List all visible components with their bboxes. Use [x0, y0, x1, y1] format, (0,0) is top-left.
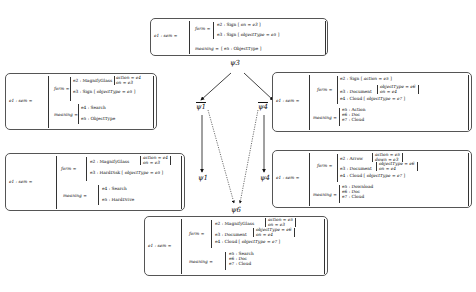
form-attrs: action = e4on = e3 [114, 76, 141, 85]
form-brace [86, 157, 87, 181]
meaning-entry: e5 : HardDrive [102, 197, 134, 202]
form-entry: e3 : Sign [ objectType = e5 ] [217, 32, 279, 37]
form-entry: e4 : Cloud [ objectType = e7 ] [215, 239, 280, 244]
form-entry: e4 : Cloud [ objectType = e7 ] [340, 96, 405, 101]
form-brace [70, 77, 71, 101]
meaning-entry: e5 : Downloade6 : Doce7 : Cloud [342, 185, 373, 199]
form-label: form = [317, 163, 332, 168]
avm-mid-left: e1 : sem = form = e2 : MagnifyGlass acti… [5, 73, 157, 130]
form-attrs: action = e4on = e3 [140, 156, 171, 165]
arrow-psi4bar-to-psi6 [240, 110, 258, 203]
meaning-entry: [ e5 : ObjectType ] [221, 46, 261, 51]
meaning-brace [339, 185, 340, 203]
avm-lhs: e1 : sem = [148, 243, 171, 248]
meaning-label: meaning = [63, 193, 87, 198]
arrow-psi1bar-to-psi6 [208, 110, 234, 203]
form-entry: e3 : Document [340, 89, 372, 94]
arrow-psi3-to-psi1bar [201, 73, 231, 100]
meaning-entry: e5 : ObjectType [81, 116, 115, 121]
form-entry: e2 : MagnifyGlass [90, 159, 129, 164]
label-psi6: ψ6 [231, 206, 241, 214]
form-brace [211, 220, 212, 248]
form-entry: e2 : Sign [ action = e5 ] [340, 76, 392, 81]
avm-top: e1 : sem = form = e2 : Sign [ on = e3 ] … [150, 18, 328, 56]
meaning-brace [225, 252, 226, 270]
avm-mid-right: e1 : sem = form = e2 : Sign [ action = e… [272, 72, 472, 132]
arrow-psi3-to-psi4bar [244, 73, 273, 100]
avm-lhs: e1 : sem = [276, 175, 299, 180]
label-psi4: ψ4 [260, 174, 270, 182]
form-attrs: action = e5on = e3 [265, 218, 296, 227]
form-brace [337, 76, 338, 104]
label-psi1-bar-text: ψ1 [196, 103, 206, 111]
meaning-entry: e4 : Search [81, 105, 106, 110]
meaning-label: meaning = [195, 46, 219, 51]
meaning-label: meaning = [313, 192, 337, 197]
form-label: form = [54, 86, 69, 91]
form-entry: e2 : Arrow [340, 156, 363, 161]
meaning-label: meaning = [313, 115, 337, 120]
meaning-label: meaning = [189, 259, 213, 264]
form-entry: e4 : Cloud [ objectType = e7 ] [340, 173, 405, 178]
label-psi1-bar: ψ1 [196, 103, 206, 111]
form-label: form = [189, 231, 204, 236]
form-label: form = [61, 166, 76, 171]
meaning-entry: e4 : Search [102, 186, 127, 191]
meaning-brace [98, 185, 99, 205]
form-entry: e3 : HardDisk [ objectType = e5 ] [90, 170, 163, 175]
label-psi3: ψ3 [230, 59, 240, 67]
form-attrs: objectType = e6on = e4 [376, 162, 418, 171]
meaning-brace [78, 104, 79, 124]
form-attrs: objectType = e6on = e4 [253, 228, 295, 237]
label-psi4-bar: ψ4 [258, 103, 268, 111]
form-entry: e2 : MagnifyGlass [215, 221, 254, 226]
avm-lower-right: e1 : sem = form = e2 : Arrow action = e5… [272, 150, 472, 208]
avm-bottom: e1 : sem = form = e2 : MagnifyGlass acti… [144, 216, 328, 276]
form-attrs: objectType = e6on = e4 [377, 85, 419, 94]
meaning-entry: e5 : Searche6 : Doce7 : Cloud [229, 252, 254, 266]
label-psi1: ψ1 [198, 174, 208, 182]
form-entry: e2 : MagnifyGlass [73, 78, 112, 83]
form-brace [213, 22, 214, 39]
avm-lower-left: e1 : sem = form = e2 : MagnifyGlass acti… [5, 153, 185, 211]
meaning-brace [339, 108, 340, 126]
label-psi4-bar-text: ψ4 [258, 103, 268, 111]
meaning-label: meaning = [54, 112, 78, 117]
form-entry: e3 : Sign [ objectType = e5 ] [73, 89, 135, 94]
avm-lhs: e1 : sem = [154, 33, 177, 38]
avm-lhs: e1 : sem = [9, 98, 32, 103]
form-label: form = [195, 26, 210, 31]
avm-lhs: e1 : sem = [276, 98, 299, 103]
form-entry: e3 : Document [215, 232, 247, 237]
form-entry: e2 : Sign [ on = e3 ] [217, 22, 261, 27]
meaning-entry: e5 : Actione6 : Doce7 : Cloud [342, 108, 365, 122]
form-entry: e3 : Document [340, 166, 372, 171]
form-brace [337, 154, 338, 182]
avm-lhs: e1 : sem = [9, 179, 32, 184]
form-label: form = [317, 87, 332, 92]
